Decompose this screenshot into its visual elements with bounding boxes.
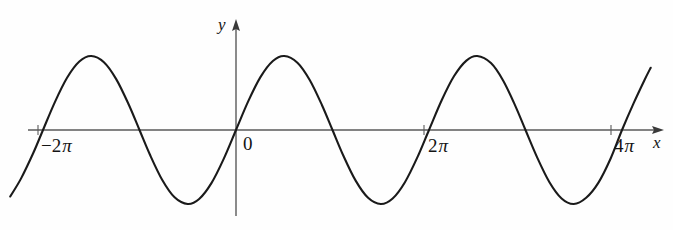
plot-canvas (0, 0, 673, 230)
x-tick-number-neg-2pi: −2 (41, 135, 61, 156)
origin-label: 0 (243, 134, 253, 153)
x-axis-label: x (653, 134, 661, 151)
sine-wave-figure: y x 0 −2π 2π 4π (0, 0, 673, 230)
pi-symbol-neg-2pi: π (61, 135, 72, 156)
x-tick-label-neg-2pi: −2π (41, 136, 72, 155)
x-tick-number-4pi: 4 (614, 135, 624, 156)
x-tick-label-4pi: 4π (614, 136, 634, 155)
x-tick-number-2pi: 2 (428, 135, 438, 156)
pi-symbol-4pi: π (624, 135, 635, 156)
x-tick-label-2pi: 2π (428, 136, 448, 155)
pi-symbol-2pi: π (438, 135, 449, 156)
y-axis-label: y (218, 16, 226, 33)
